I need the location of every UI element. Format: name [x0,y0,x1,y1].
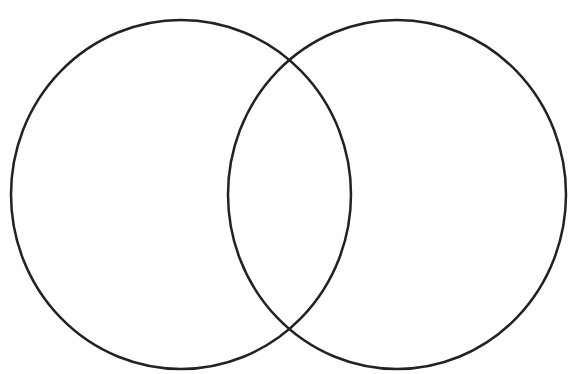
diagram-background [0,0,579,374]
venn-diagram [0,0,579,374]
